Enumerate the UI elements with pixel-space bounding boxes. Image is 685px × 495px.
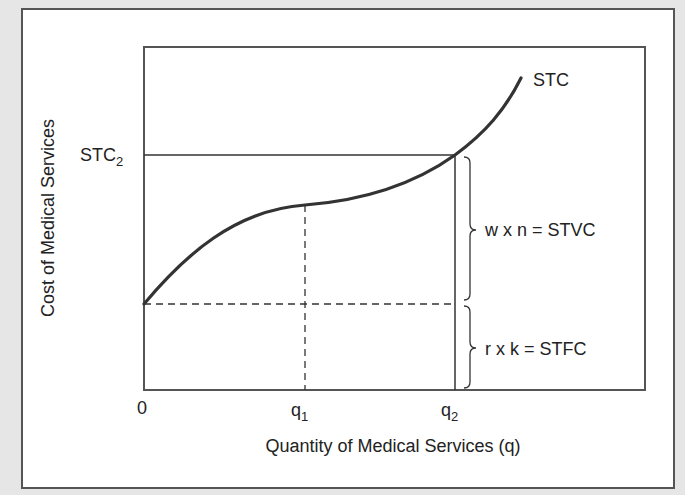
stfc-brace <box>464 306 476 388</box>
stfc-annotation: r x k = STFC <box>485 339 587 359</box>
stc2-tick-label: STC2 <box>80 145 123 169</box>
origin-tick-label: 0 <box>137 398 147 418</box>
stc-curve <box>144 78 521 304</box>
y-axis-label: Cost of Medical Services <box>38 119 58 317</box>
q1-tick-label: q1 <box>291 400 308 424</box>
stc-curve-label: STC <box>533 70 569 90</box>
x-axis-label: Quantity of Medical Services (q) <box>265 436 520 456</box>
cost-curve-chart: STC STC2 w x n = STVC r x k = STFC 0 q1 … <box>0 0 685 495</box>
stvc-annotation: w x n = STVC <box>484 220 596 240</box>
stvc-brace <box>464 157 476 300</box>
q2-tick-label: q2 <box>441 400 458 424</box>
